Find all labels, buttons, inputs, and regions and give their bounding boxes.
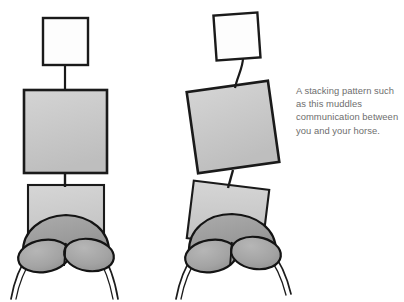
stacking-pattern-caption: A stacking pattern such as this muddles … (296, 84, 400, 137)
figure-stacked-rider (176, 13, 291, 299)
figure-illustration (0, 0, 404, 302)
illustration-canvas: A stacking pattern such as this muddles … (0, 0, 404, 302)
rider-torso-right (187, 81, 280, 174)
figure-aligned-rider (11, 18, 118, 299)
rider-head-right (213, 13, 260, 61)
rider-torso-left (24, 90, 107, 173)
rider-head-left (43, 18, 88, 65)
